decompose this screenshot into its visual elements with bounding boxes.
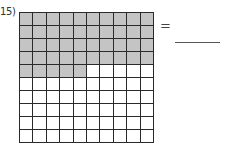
grid-cell-shaded	[127, 13, 140, 26]
grid-cell-shaded	[141, 13, 154, 26]
grid-cell-shaded	[74, 13, 87, 26]
grid-cell-shaded	[20, 52, 33, 65]
grid-cell	[100, 65, 113, 78]
grid-cell-shaded	[100, 13, 113, 26]
grid-cell-shaded	[87, 26, 100, 39]
grid-cell-shaded	[33, 52, 46, 65]
grid-cell	[141, 78, 154, 91]
grid-cell	[74, 104, 87, 117]
problem-number: 15)	[0, 6, 16, 17]
grid-cell-shaded	[33, 13, 46, 26]
grid-cell	[87, 130, 100, 143]
grid-cell-shaded	[127, 39, 140, 52]
grid-cell	[127, 78, 140, 91]
grid-cell-shaded	[87, 13, 100, 26]
grid-cell	[60, 104, 73, 117]
grid-cell	[114, 91, 127, 104]
grid-cell	[127, 104, 140, 117]
grid-cell-shaded	[47, 13, 60, 26]
grid-cell	[114, 117, 127, 130]
grid-cell	[20, 117, 33, 130]
grid-cell	[60, 117, 73, 130]
grid-cell	[74, 117, 87, 130]
grid-cell-shaded	[127, 26, 140, 39]
grid-cell	[74, 78, 87, 91]
grid-cell	[127, 91, 140, 104]
grid-cell	[74, 91, 87, 104]
grid-cell-shaded	[33, 39, 46, 52]
grid-cell	[114, 65, 127, 78]
grid-cell	[74, 130, 87, 143]
grid-cell	[127, 117, 140, 130]
grid-cell-shaded	[141, 39, 154, 52]
grid-cell	[100, 117, 113, 130]
grid-cell-shaded	[60, 26, 73, 39]
grid-cell-shaded	[87, 39, 100, 52]
grid-cell-shaded	[60, 39, 73, 52]
grid-cell-shaded	[114, 13, 127, 26]
grid-cell	[47, 78, 60, 91]
grid-cell-shaded	[114, 39, 127, 52]
grid-cell-shaded	[74, 65, 87, 78]
grid-cell-shaded	[20, 26, 33, 39]
grid-cell-shaded	[141, 26, 154, 39]
grid-cell-shaded	[74, 39, 87, 52]
grid-cell-shaded	[74, 26, 87, 39]
grid-cell	[87, 78, 100, 91]
equals-sign: =	[160, 18, 171, 33]
grid-cell	[47, 104, 60, 117]
grid-cell	[100, 130, 113, 143]
grid-cell-shaded	[141, 52, 154, 65]
grid-cell	[100, 104, 113, 117]
grid-cell-shaded	[127, 52, 140, 65]
grid-cell-shaded	[47, 39, 60, 52]
grid-cell	[100, 78, 113, 91]
grid-cell	[87, 91, 100, 104]
grid-cell-shaded	[60, 13, 73, 26]
grid-cell	[87, 117, 100, 130]
grid-cell-shaded	[87, 52, 100, 65]
grid-cell	[141, 117, 154, 130]
grid-cell	[33, 104, 46, 117]
grid-cell	[87, 104, 100, 117]
grid-cell-shaded	[100, 39, 113, 52]
grid-cell-shaded	[47, 65, 60, 78]
grid-cell-shaded	[33, 26, 46, 39]
grid-cell	[60, 78, 73, 91]
grid-cell	[20, 78, 33, 91]
grid-cell	[114, 130, 127, 143]
grid-cell-shaded	[100, 52, 113, 65]
grid-cell-shaded	[74, 52, 87, 65]
grid-cell	[20, 91, 33, 104]
grid-cell	[114, 78, 127, 91]
grid-cell-shaded	[114, 52, 127, 65]
grid-cell	[127, 65, 140, 78]
grid-cell	[60, 130, 73, 143]
grid-cell	[33, 78, 46, 91]
grid-cell	[60, 91, 73, 104]
grid-cell	[33, 117, 46, 130]
grid-cell	[114, 104, 127, 117]
grid-cell	[20, 104, 33, 117]
grid-cell	[33, 91, 46, 104]
grid-cell-shaded	[20, 39, 33, 52]
grid-cell	[127, 130, 140, 143]
grid-cell	[47, 91, 60, 104]
grid-cell-shaded	[20, 13, 33, 26]
grid-cell	[141, 91, 154, 104]
grid-cell-shaded	[47, 52, 60, 65]
grid-cell-shaded	[33, 65, 46, 78]
grid-cell	[20, 130, 33, 143]
grid-cell-shaded	[114, 26, 127, 39]
grid-cell	[87, 65, 100, 78]
grid-cell-shaded	[60, 65, 73, 78]
answer-blank[interactable]	[175, 42, 220, 43]
grid-cell-shaded	[60, 52, 73, 65]
grid-cell	[33, 130, 46, 143]
grid-cell	[141, 104, 154, 117]
grid-cell	[141, 65, 154, 78]
grid-cell-shaded	[100, 26, 113, 39]
grid-cell-shaded	[20, 65, 33, 78]
grid-cell	[141, 130, 154, 143]
grid-cell	[47, 130, 60, 143]
